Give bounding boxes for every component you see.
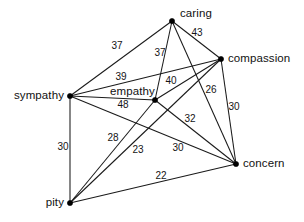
node-label-compassion: compassion — [228, 53, 290, 65]
edge-weight-compassion-pity: 28 — [107, 133, 118, 143]
graph-edge-caring-empathy — [155, 21, 172, 100]
edge-weight-caring-empathy: 37 — [154, 48, 165, 58]
edge-weight-caring-compassion: 43 — [191, 28, 202, 38]
graph-node-caring[interactable] — [169, 18, 174, 23]
edge-weight-caring-sympathy: 37 — [111, 41, 122, 51]
graph-edge-empathy-concern — [155, 100, 236, 164]
graph-node-compassion[interactable] — [218, 56, 223, 61]
node-label-caring: caring — [180, 8, 212, 20]
graph-node-sympathy[interactable] — [67, 93, 72, 98]
graph-node-pity[interactable] — [67, 200, 72, 205]
edge-weight-compassion-empathy: 40 — [165, 76, 176, 86]
graph-svg — [0, 0, 304, 222]
edge-weight-sympathy-pity: 30 — [57, 142, 68, 152]
edge-weight-sympathy-concern: 30 — [172, 143, 183, 153]
graph-node-empathy[interactable] — [152, 97, 157, 102]
edge-weight-sympathy-compassion: 39 — [115, 72, 126, 82]
edge-weight-empathy-concern: 32 — [184, 114, 195, 124]
node-label-empathy: empathy — [110, 86, 155, 98]
graph-edge-sympathy-concern — [70, 96, 236, 164]
graph-edge-compassion-pity — [70, 59, 221, 203]
node-label-concern: concern — [243, 158, 285, 170]
similarity-graph-canvas: caringcompassionsympathyempathyconcernpi… — [0, 0, 304, 222]
node-label-sympathy: sympathy — [14, 90, 64, 102]
edge-weight-sympathy-empathy: 48 — [117, 100, 128, 110]
graph-edge-concern-pity — [70, 164, 236, 203]
edges-layer — [70, 21, 236, 203]
edge-weight-empathy-pity: 23 — [132, 145, 143, 155]
edge-weight-caring-concern: 26 — [205, 85, 216, 95]
edge-weight-compassion-concern: 30 — [228, 102, 239, 112]
node-label-pity: pity — [46, 197, 64, 209]
graph-node-concern[interactable] — [233, 161, 238, 166]
edge-weight-concern-pity: 22 — [155, 171, 166, 181]
